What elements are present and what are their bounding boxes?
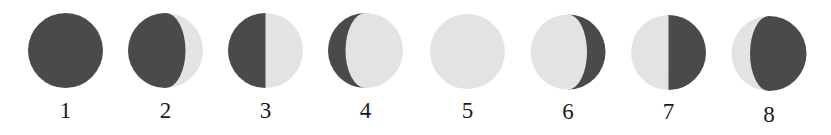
moon-shadow-icon xyxy=(128,13,186,88)
moon-phase-6: 6 xyxy=(531,15,606,125)
moon-disc-icon xyxy=(430,14,505,89)
moon-phase-7: 7 xyxy=(631,15,706,124)
moon-phases-diagram: 12345678 xyxy=(0,0,831,135)
moon-phase-2: 2 xyxy=(128,13,203,123)
moon-phase-1: 1 xyxy=(28,13,103,123)
phase-number-label: 2 xyxy=(160,98,172,123)
moon-disc-icon xyxy=(28,13,103,88)
phase-number-label: 4 xyxy=(360,98,372,123)
phase-number-label: 1 xyxy=(60,98,72,123)
phase-number-label: 6 xyxy=(562,99,574,124)
phase-number-label: 5 xyxy=(462,98,474,123)
moon-shadow-icon xyxy=(228,13,265,88)
phase-number-label: 3 xyxy=(260,98,272,123)
moon-phase-4: 4 xyxy=(328,13,403,123)
moon-phase-list: 12345678 xyxy=(28,13,807,127)
moon-phase-8: 8 xyxy=(732,16,807,127)
phase-number-label: 8 xyxy=(763,102,775,127)
moon-phase-3: 3 xyxy=(228,13,303,123)
phase-number-label: 7 xyxy=(663,99,675,124)
moon-phase-5: 5 xyxy=(430,14,505,123)
